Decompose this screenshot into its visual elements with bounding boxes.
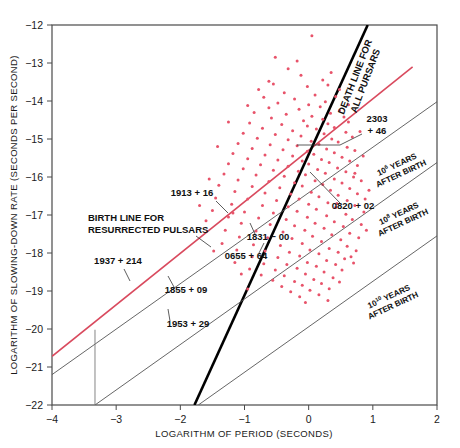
scatter-point — [320, 240, 323, 243]
scatter-point — [287, 205, 290, 208]
scatter-point — [275, 199, 278, 202]
scatter-point — [353, 172, 356, 175]
scatter-point — [272, 82, 275, 85]
x-tick-label: −3 — [110, 413, 122, 425]
y-tick-label: −18 — [25, 247, 43, 259]
scatter-point — [270, 117, 273, 120]
scatter-point — [217, 184, 220, 187]
scatter-point — [296, 267, 299, 270]
scatter-point — [237, 179, 240, 182]
scatter-point — [344, 213, 347, 216]
scatter-point — [298, 255, 301, 258]
scatter-point — [304, 301, 307, 304]
scatter-point — [326, 299, 329, 302]
scatter-point — [356, 192, 359, 195]
scatter-point — [336, 166, 339, 169]
scatter-point — [337, 141, 340, 144]
scatter-point — [267, 106, 270, 109]
scatter-point — [326, 122, 329, 125]
scatter-point — [350, 255, 353, 258]
scatter-point — [242, 132, 245, 135]
pulsar-label-text: 0655 + 64 — [225, 250, 268, 261]
scatter-point — [216, 145, 219, 148]
scatter-point — [333, 126, 336, 129]
birth-line-label-line1: BIRTH LINE FOR — [88, 212, 164, 223]
scatter-point — [256, 137, 259, 140]
scatter-point — [325, 147, 328, 150]
scatter-point — [348, 187, 351, 190]
y-axis-title: LOGARITHM OF SLOWING-DOWN RATE (SECONDS … — [8, 55, 19, 375]
scatter-point — [280, 285, 283, 288]
x-tick-label: 1 — [370, 413, 376, 425]
scatter-point — [337, 194, 340, 197]
scatter-point — [359, 130, 362, 133]
scatter-point — [260, 274, 263, 277]
x-tick-label: 0 — [306, 413, 312, 425]
scatter-point — [227, 162, 230, 165]
scatter-point — [325, 214, 328, 217]
x-tick-label: −2 — [174, 413, 186, 425]
scatter-point — [272, 169, 275, 172]
scatter-point — [279, 244, 282, 247]
scatter-point — [227, 215, 230, 218]
y-tick-label: −22 — [25, 399, 43, 411]
scatter-point — [301, 185, 304, 188]
scatter-point — [285, 218, 288, 221]
scatter-point — [278, 186, 281, 189]
scatter-point — [306, 150, 309, 153]
scatter-point — [291, 129, 294, 132]
scatter-point — [315, 265, 318, 268]
scatter-point — [367, 189, 370, 192]
scatter-point — [248, 122, 251, 125]
scatter-point — [328, 287, 331, 290]
scatter-point — [299, 74, 302, 77]
scatter-point — [341, 156, 344, 159]
y-tick-label: −21 — [25, 361, 43, 373]
scatter-point — [285, 113, 288, 116]
scatter-point — [321, 79, 324, 82]
scatter-point — [299, 134, 302, 137]
scatter-point — [325, 259, 328, 262]
scatter-point — [238, 236, 241, 239]
x-tick-label: 2 — [434, 413, 440, 425]
scatter-point — [246, 198, 249, 201]
scatter-point — [293, 280, 296, 283]
scatter-point — [339, 238, 342, 241]
x-tick-label: −4 — [46, 413, 58, 425]
scatter-point — [308, 248, 311, 251]
scatter-point — [323, 132, 326, 135]
scatter-point — [304, 272, 307, 275]
scatter-point — [346, 146, 349, 149]
scatter-point — [301, 242, 304, 245]
scatter-point — [352, 261, 355, 264]
scatter-point — [317, 195, 320, 198]
scatter-point — [303, 229, 306, 232]
scatter-point — [289, 290, 292, 293]
scatter-point — [306, 216, 309, 219]
scatter-point — [301, 160, 304, 163]
scatter-point — [221, 242, 224, 245]
scatter-point — [315, 208, 318, 211]
scatter-point — [246, 104, 249, 107]
scatter-point — [296, 210, 299, 213]
scatter-point — [248, 267, 251, 270]
scatter-point — [306, 125, 309, 128]
scatter-point — [212, 250, 215, 253]
scatter-point — [353, 149, 356, 152]
scatter-point — [285, 263, 288, 266]
scatter-point — [356, 164, 359, 167]
scatter-point — [240, 272, 243, 275]
scatter-point — [310, 191, 313, 194]
scatter-point — [317, 252, 320, 255]
scatter-point — [231, 212, 234, 215]
scatter-point — [360, 223, 363, 226]
scatter-point — [355, 249, 358, 252]
scatter-point — [326, 201, 329, 204]
chart-svg: −4−3−2−1012 −12−13−14−15−16−17−18−19−20−… — [0, 0, 460, 448]
scatter-point — [307, 203, 310, 206]
scatter-point — [298, 198, 301, 201]
scatter-point — [283, 274, 286, 277]
scatter-point — [298, 295, 301, 298]
scatter-point — [233, 190, 236, 193]
scatter-point — [330, 71, 333, 74]
